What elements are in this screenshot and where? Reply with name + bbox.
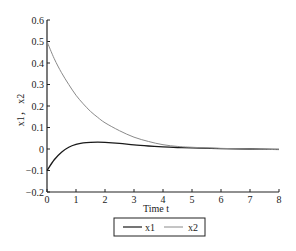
y-tick-label: 0.4 [32, 58, 45, 69]
x-tick-label: 0 [45, 194, 50, 205]
legend-label-x1: x1 [145, 222, 155, 233]
x-tick-label: 5 [190, 194, 195, 205]
y-axis-ticks: 0.60.50.40.30.20.10−0.1−0.2 [26, 15, 50, 198]
x-tick-label: 8 [277, 194, 282, 205]
x-tick-label: 2 [103, 194, 108, 205]
legend: x1 x2 [114, 218, 205, 236]
line-chart: 0.60.50.40.30.20.10−0.1−0.2 012345678 x1… [0, 0, 296, 251]
y-tick-label: −0.1 [26, 165, 44, 176]
y-tick-label: −0.2 [26, 187, 44, 198]
y-tick-label: 0.2 [32, 101, 45, 112]
x-axis-label: Time t [143, 203, 169, 214]
plot-lines [47, 42, 279, 171]
x-tick-label: 1 [74, 194, 79, 205]
y-tick-label: 0.1 [32, 122, 45, 133]
series-line-x2 [47, 42, 279, 150]
legend-label-x2: x2 [188, 222, 198, 233]
x-tick-label: 3 [132, 194, 137, 205]
y-tick-label: 0.6 [32, 15, 45, 26]
y-axis-label: x1， x2 [15, 94, 26, 127]
series-line-x1 [47, 142, 279, 170]
x-tick-label: 7 [248, 194, 253, 205]
y-tick-label: 0.5 [32, 36, 45, 47]
x-tick-label: 6 [219, 194, 224, 205]
y-tick-label: 0 [39, 144, 44, 155]
y-tick-label: 0.3 [32, 79, 45, 90]
